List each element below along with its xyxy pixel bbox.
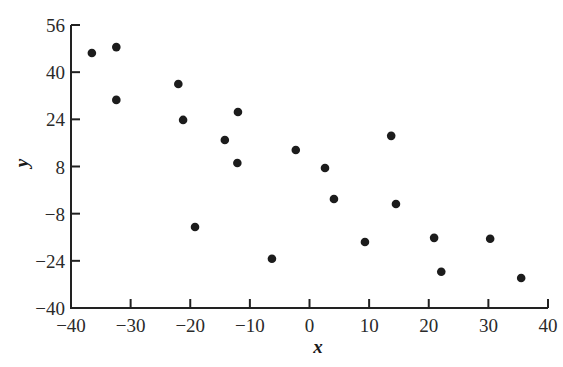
data-point [234,108,243,117]
data-point [268,254,277,263]
data-point [486,234,495,243]
x-tick-label: −10 [235,315,265,336]
data-point [233,159,242,168]
y-tick-label: −24 [35,251,65,272]
y-tick-label: 8 [56,157,66,178]
y-axis-label: y [11,158,32,169]
axes [71,25,548,308]
data-point [179,116,188,125]
y-tick-label: 24 [46,109,66,130]
x-axis-ticks: −40−30−20−10010203040 [56,299,557,336]
data-points [88,43,526,282]
axis-lines [71,25,548,308]
y-tick-label: −8 [45,204,65,225]
data-point [330,195,339,204]
data-point [174,80,183,89]
data-point [112,96,121,105]
x-tick-label: 30 [479,315,498,336]
x-tick-label: −20 [175,315,205,336]
x-tick-label: −30 [116,315,146,336]
y-tick-label: 40 [46,62,65,83]
x-tick-label: −40 [56,315,86,336]
data-point [361,238,370,247]
y-axis-ticks: −40−24−88244056 [35,15,80,319]
data-point [387,132,396,141]
data-point [88,49,97,58]
data-point [430,234,439,243]
x-tick-label: 40 [539,315,558,336]
data-point [112,43,121,52]
data-point [437,267,446,276]
x-tick-label: 20 [419,315,438,336]
x-axis-label: x [312,336,323,357]
data-point [191,223,200,232]
y-tick-label: 56 [46,15,65,36]
data-point [392,200,401,209]
data-point [517,274,526,283]
data-point [291,146,300,155]
scatter-chart: −40−24−88244056 −40−30−20−10010203040 x … [0,0,563,367]
data-point [221,136,230,145]
data-point [321,164,330,173]
x-tick-label: 0 [305,315,315,336]
x-tick-label: 10 [360,315,379,336]
